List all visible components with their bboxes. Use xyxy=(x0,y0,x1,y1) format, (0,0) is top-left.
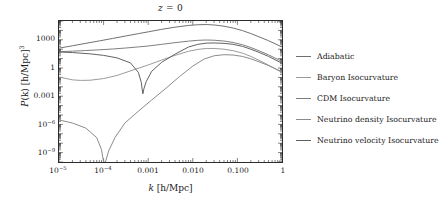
legend-label: CDM Isocurvature xyxy=(317,95,390,103)
series-line-0 xyxy=(59,25,282,49)
x-axis-unit: [h/Mpc] xyxy=(154,183,193,193)
legend-item-3[interactable]: Neutrino density Isocurvature xyxy=(296,109,443,130)
x-tick-label: 1 xyxy=(281,167,286,175)
legend-swatch-icon xyxy=(296,56,311,57)
plot-area xyxy=(58,20,283,163)
x-tick-label: 10−5 xyxy=(49,167,66,175)
legend-label: Baryon Isocurvature xyxy=(317,74,398,82)
legend-item-0[interactable]: Adiabatic xyxy=(296,46,443,67)
title-equals: = xyxy=(163,3,177,13)
y-tick-label: 1 xyxy=(50,64,55,72)
x-axis-tick-labels: 10−510−40.0010.0100.1001 xyxy=(58,167,283,179)
x-axis-title: k [h/Mpc] xyxy=(58,183,283,193)
chart-title: z = 0 xyxy=(58,3,283,13)
y-axis-symbol-k: (k) xyxy=(20,88,30,100)
legend: AdiabaticBaryon IsocurvatureCDM Isocurva… xyxy=(296,46,443,151)
legend-item-1[interactable]: Baryon Isocurvature xyxy=(296,67,443,88)
legend-swatch-icon xyxy=(296,98,311,99)
y-tick-label: 10−9 xyxy=(38,150,55,158)
y-axis-unit: [h/Mpc] xyxy=(20,49,30,88)
curves-svg xyxy=(59,21,282,162)
y-axis-title: P(k) [h/Mpc]3 xyxy=(20,5,30,148)
legend-swatch-icon xyxy=(296,119,311,120)
title-value: 0 xyxy=(177,3,183,13)
legend-swatch-icon xyxy=(296,77,311,78)
legend-item-4[interactable]: Neutrino velocity Isocurvature xyxy=(296,130,443,151)
y-tick-label: 10−6 xyxy=(38,121,55,129)
series-line-3 xyxy=(59,55,282,162)
series-line-1 xyxy=(59,48,282,80)
figure: z = 0 100010.00110−610−9 10−510−40.0010.… xyxy=(0,0,443,211)
legend-label: Adiabatic xyxy=(317,53,354,61)
legend-label: Neutrino velocity Isocurvature xyxy=(317,137,439,145)
y-axis-symbol-p: P xyxy=(20,101,30,107)
x-tick-label: 10−4 xyxy=(94,167,111,175)
x-tick-label: 0.010 xyxy=(182,167,203,175)
y-tick-label: 1000 xyxy=(36,35,55,43)
legend-item-2[interactable]: CDM Isocurvature xyxy=(296,88,443,109)
x-tick-label: 0.100 xyxy=(227,167,248,175)
x-tick-label: 0.001 xyxy=(137,167,158,175)
y-tick-label: 0.001 xyxy=(34,93,55,101)
legend-label: Neutrino density Isocurvature xyxy=(317,116,437,124)
y-axis-exponent: 3 xyxy=(18,45,25,49)
legend-swatch-icon xyxy=(296,140,311,141)
